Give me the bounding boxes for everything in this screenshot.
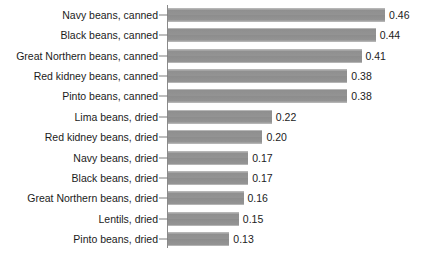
bar-value-label: 0.22	[272, 111, 296, 123]
category-label: Great Northern beans, dried	[27, 192, 158, 204]
bar	[168, 90, 347, 103]
bar-row: Navy beans, canned0.46	[0, 5, 424, 26]
axis-tick-mark	[159, 55, 168, 56]
category-label: Red kidney beans, canned	[34, 70, 158, 82]
axis-tick-mark	[159, 75, 168, 76]
bar-chart: Navy beans, canned0.46Black beans, canne…	[0, 0, 424, 253]
bar-row: Lima beans, dried0.22	[0, 107, 424, 128]
category-label: Pinto beans, canned	[62, 90, 158, 102]
bar-row: Pinto beans, dried0.13	[0, 229, 424, 250]
bar	[168, 69, 347, 82]
category-label: Black beans, canned	[61, 29, 158, 41]
axis-tick-mark	[159, 157, 168, 158]
bar-value-label: 0.44	[376, 29, 400, 41]
axis-tick-mark	[159, 14, 168, 15]
bar	[168, 131, 262, 144]
axis-tick-mark	[159, 35, 168, 36]
bar	[168, 110, 272, 123]
axis-tick-mark	[159, 116, 168, 117]
bar-row: Great Northern beans, canned0.41	[0, 45, 424, 66]
bar-value-label: 0.38	[347, 90, 371, 102]
bar	[168, 171, 248, 184]
bar	[168, 192, 244, 205]
bar-value-label: 0.46	[385, 9, 409, 21]
axis-tick-mark	[159, 218, 168, 219]
bar-value-label: 0.15	[239, 213, 263, 225]
bar-row: Great Northern beans, dried0.16	[0, 188, 424, 209]
category-label: Lima beans, dried	[75, 111, 158, 123]
axis-tick-mark	[159, 198, 168, 199]
category-label: Great Northern beans, canned	[16, 50, 158, 62]
bar-value-label: 0.38	[347, 70, 371, 82]
bar-value-label: 0.41	[362, 50, 386, 62]
bar-value-label: 0.16	[244, 192, 268, 204]
axis-tick-mark	[159, 96, 168, 97]
category-label: Navy beans, canned	[62, 9, 158, 21]
bar	[168, 212, 239, 225]
bar	[168, 29, 376, 42]
bar-row: Pinto beans, canned0.38	[0, 86, 424, 107]
bar-value-label: 0.13	[229, 233, 253, 245]
bar	[168, 151, 248, 164]
bar	[168, 8, 385, 21]
category-label: Black beans, dried	[72, 172, 158, 184]
category-label: Navy beans, dried	[73, 152, 158, 164]
bar-value-label: 0.17	[248, 172, 272, 184]
bar	[168, 233, 229, 246]
category-label: Lentils, dried	[98, 213, 158, 225]
bar-row: Navy beans, dried0.17	[0, 147, 424, 168]
bar-row: Red kidney beans, canned0.38	[0, 66, 424, 87]
bar-row: Black beans, canned0.44	[0, 25, 424, 46]
category-label: Pinto beans, dried	[73, 233, 158, 245]
bar-value-label: 0.20	[262, 131, 286, 143]
bar-row: Red kidney beans, dried0.20	[0, 127, 424, 148]
bar-value-label: 0.17	[248, 152, 272, 164]
bar	[168, 49, 362, 62]
axis-tick-mark	[159, 239, 168, 240]
axis-tick-mark	[159, 177, 168, 178]
bar-row: Lentils, dried0.15	[0, 209, 424, 230]
bar-row: Black beans, dried0.17	[0, 168, 424, 189]
category-label: Red kidney beans, dried	[45, 131, 158, 143]
axis-tick-mark	[159, 137, 168, 138]
plot-area: Navy beans, canned0.46Black beans, canne…	[0, 0, 424, 253]
